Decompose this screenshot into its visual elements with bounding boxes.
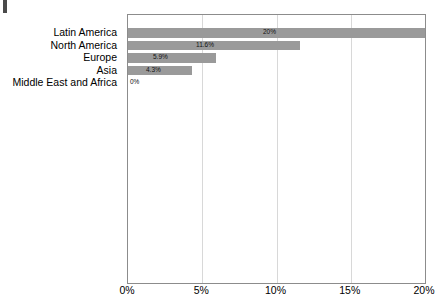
bar-value-label: 20%	[263, 26, 276, 38]
category-label: Latin America	[0, 26, 121, 39]
bar-row: 11.6%	[128, 40, 425, 53]
bar-row: 20%	[128, 27, 425, 40]
x-axis-tick-labels: 0% 5% 10% 15% 20%	[127, 284, 424, 304]
x-tick-label: 20%	[413, 284, 434, 296]
bar-series: 20% 11.6% 5.9% 4.3% 0%	[128, 27, 425, 90]
bar-row: 5.9%	[128, 52, 425, 65]
bar	[128, 41, 300, 51]
bar	[128, 28, 425, 38]
horizontal-bar-chart: Latin America North America Europe Asia …	[0, 0, 441, 306]
page-edge-artifact	[3, 0, 7, 13]
category-label: Asia	[0, 64, 121, 77]
x-tick-label: 5%	[194, 284, 209, 296]
bar-value-label: 11.6%	[196, 39, 214, 51]
bar-value-label: 4.3%	[146, 64, 161, 76]
bar-row: 0%	[128, 77, 425, 90]
bar-value-label: 0%	[130, 76, 139, 88]
plot-area: 20% 11.6% 5.9% 4.3% 0%	[127, 14, 426, 284]
bar-row: 4.3%	[128, 65, 425, 78]
x-tick-label: 15%	[339, 284, 360, 296]
bar-value-label: 5.9%	[153, 51, 168, 63]
category-label: Europe	[0, 51, 121, 64]
bar	[128, 53, 216, 63]
category-axis-labels: Latin America North America Europe Asia …	[0, 26, 121, 89]
category-label: North America	[0, 39, 121, 52]
x-tick-label: 0%	[119, 284, 134, 296]
category-label: Middle East and Africa	[0, 76, 121, 89]
x-tick-label: 10%	[265, 284, 286, 296]
